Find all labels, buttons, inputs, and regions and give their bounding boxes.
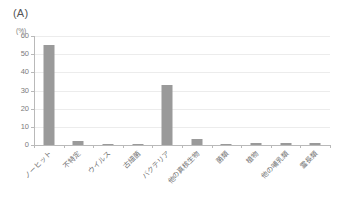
x-axis-label-text: 霊長類 <box>299 150 320 171</box>
x-axis-label: 菌類 <box>215 150 231 166</box>
x-tick-mark <box>330 145 331 148</box>
x-tick-mark <box>300 145 301 148</box>
x-axis-label-text: 植物 <box>245 150 261 166</box>
x-tick-mark <box>34 145 35 148</box>
x-axis-label-text: 古細菌 <box>122 150 143 171</box>
bar-slot <box>241 36 271 145</box>
bar <box>162 85 173 145</box>
y-axis-line <box>34 36 35 146</box>
x-axis-label-text: ウイルス <box>87 150 112 175</box>
x-axis-label: 植物 <box>245 150 261 166</box>
bar-slot <box>123 36 153 145</box>
y-tick-label: 0 <box>25 141 29 149</box>
y-tick-label: 60 <box>21 32 29 40</box>
x-tick-mark <box>241 145 242 148</box>
bar-slot <box>34 36 64 145</box>
bar-slot <box>93 36 123 145</box>
bar-slot <box>271 36 301 145</box>
x-axis-label: 不特定 <box>63 150 84 171</box>
x-tick-mark <box>271 145 272 148</box>
bar-slot <box>212 36 242 145</box>
x-tick-mark <box>93 145 94 148</box>
x-axis-label-text: 他の哺乳類 <box>260 150 290 180</box>
bar-slot <box>152 36 182 145</box>
bar-chart: (A) (%) 6050403020100 ノーヒット不特定ウイルス古細菌バクテ… <box>0 0 341 206</box>
bar <box>43 45 54 145</box>
x-tick-mark <box>182 145 183 148</box>
x-axis-label-text: 不特定 <box>63 150 84 171</box>
y-tick-label: 40 <box>21 68 29 76</box>
x-axis-label: 他の哺乳類 <box>260 150 290 180</box>
bar-slot <box>64 36 94 145</box>
y-tick-label: 30 <box>21 87 29 95</box>
panel-label: (A) <box>13 7 28 19</box>
x-tick-mark <box>152 145 153 148</box>
x-axis-label: 霊長類 <box>299 150 320 171</box>
y-tick-label: 50 <box>21 50 29 58</box>
x-axis-label: ウイルス <box>87 150 112 175</box>
x-axis-label: 古細菌 <box>122 150 143 171</box>
x-axis-label: バクテリア <box>141 150 171 180</box>
x-axis-label: ノーヒット <box>23 150 53 180</box>
x-tick-mark <box>123 145 124 148</box>
x-axis-label-text: ノーヒット <box>23 150 53 180</box>
bar-slot <box>300 36 330 145</box>
x-axis-label-text: バクテリア <box>141 150 171 180</box>
y-tick-label: 10 <box>21 123 29 131</box>
x-tick-mark <box>212 145 213 148</box>
x-axis-label-text: 菌類 <box>215 150 231 166</box>
x-tick-mark <box>64 145 65 148</box>
bar-slot <box>182 36 212 145</box>
plot-area: 6050403020100 <box>34 36 330 145</box>
y-tick-label: 20 <box>21 105 29 113</box>
